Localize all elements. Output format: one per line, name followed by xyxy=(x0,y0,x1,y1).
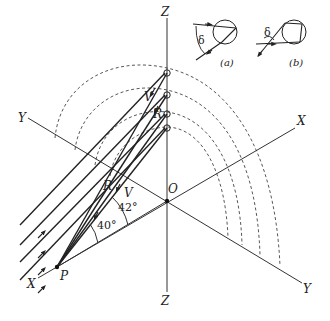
ray-label-v-upper: V xyxy=(144,90,154,104)
z-axis-top-label: Z xyxy=(160,5,170,19)
y-axis-upper-label: Y xyxy=(18,111,27,125)
inset-b-caption: (b) xyxy=(289,57,303,68)
inset-a-caption: (a) xyxy=(220,57,234,68)
x-axis-upper-label: X xyxy=(296,114,306,128)
p-to-o-line xyxy=(57,201,167,267)
observer-point xyxy=(55,265,59,269)
ray-label-r-lower: R xyxy=(102,179,112,193)
angle-label-42: 42° xyxy=(118,201,138,214)
rainbow-diagram: Z Z X X Y Y O P V R R V 42° 40° δ (a) δ … xyxy=(0,0,330,321)
origin-point xyxy=(165,199,169,203)
observer-label: P xyxy=(59,269,69,283)
z-axis-bottom-label: Z xyxy=(160,294,170,308)
inset-b-delta: δ xyxy=(264,26,271,39)
x-axis-lower-label: X xyxy=(26,277,36,291)
ray-label-r-upper: R xyxy=(152,107,162,121)
ray-label-v-lower: V xyxy=(124,186,134,200)
origin-label: O xyxy=(168,182,178,196)
inset-a-delta: δ xyxy=(198,34,205,47)
angle-label-40: 40° xyxy=(97,219,117,232)
diagram-svg: Z Z X X Y Y O P V R R V 42° 40° δ (a) δ … xyxy=(0,0,330,321)
y-axis-lower-label: Y xyxy=(303,282,312,296)
inset-b: δ (b) xyxy=(256,20,306,68)
incoming-rays xyxy=(20,73,165,293)
inset-a: δ (a) xyxy=(193,20,237,68)
